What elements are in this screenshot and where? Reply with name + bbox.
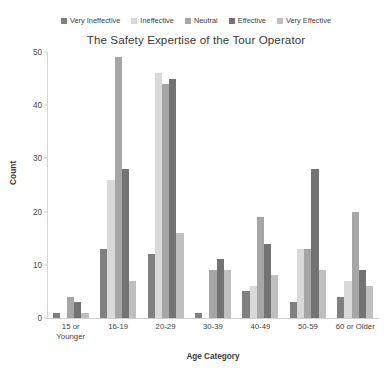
legend-swatch-icon — [185, 18, 191, 24]
bar-group — [189, 52, 236, 318]
bar[interactable] — [74, 302, 81, 318]
bar[interactable] — [155, 73, 162, 318]
x-axis-tick-label: 40-49 — [237, 322, 284, 332]
bar-group — [332, 52, 379, 318]
bar[interactable] — [264, 244, 271, 318]
bar[interactable] — [337, 297, 344, 318]
legend-label: Effective — [238, 17, 266, 24]
x-axis-tick-line: 20-29 — [142, 322, 189, 332]
x-axis-line — [47, 318, 379, 319]
bar[interactable] — [115, 57, 122, 318]
bar-group — [94, 52, 141, 318]
legend-swatch-icon — [277, 18, 283, 24]
bar[interactable] — [290, 302, 297, 318]
bar[interactable] — [242, 291, 249, 318]
legend-item[interactable]: Effective — [229, 17, 266, 24]
legend-label: Ineffective — [140, 17, 174, 24]
bar[interactable] — [81, 313, 88, 318]
x-axis-tick-label: 30-39 — [189, 322, 236, 332]
y-axis-label: Count — [8, 161, 18, 185]
bar-chart: Very IneffectiveIneffectiveNeutralEffect… — [0, 0, 392, 377]
bar[interactable] — [107, 180, 114, 318]
bar[interactable] — [176, 233, 183, 318]
bar[interactable] — [53, 313, 60, 318]
bar[interactable] — [224, 270, 231, 318]
x-axis-tick-line: Younger — [47, 332, 94, 342]
bar[interactable] — [195, 313, 202, 318]
x-axis-label: Age Category — [47, 352, 379, 361]
bar[interactable] — [169, 79, 176, 318]
bar-group — [237, 52, 284, 318]
bar[interactable] — [100, 249, 107, 318]
x-axis-tick-label: 50-59 — [284, 322, 331, 332]
bar[interactable] — [352, 212, 359, 318]
legend-swatch-icon — [61, 18, 67, 24]
legend-label: Very Ineffective — [70, 17, 120, 24]
chart-legend: Very IneffectiveIneffectiveNeutralEffect… — [0, 17, 392, 24]
bar[interactable] — [311, 169, 318, 318]
chart-title: The Safety Expertise of the Tour Operato… — [0, 33, 392, 46]
bar[interactable] — [319, 270, 326, 318]
plot-area: 01020304050 — [47, 52, 379, 318]
x-axis-tick-line: 60 or Older — [332, 322, 379, 332]
x-axis-tick-label: 20-29 — [142, 322, 189, 332]
legend-label: Very Effective — [286, 17, 331, 24]
x-axis-tick-line: 16-19 — [94, 322, 141, 332]
bar[interactable] — [122, 169, 129, 318]
bar[interactable] — [148, 254, 155, 318]
bar[interactable] — [359, 270, 366, 318]
legend-item[interactable]: Very Ineffective — [61, 17, 120, 24]
bar[interactable] — [162, 84, 169, 318]
bar-group — [47, 52, 94, 318]
x-axis-tick-label: 15 orYounger — [47, 322, 94, 342]
x-axis-tick-line: 30-39 — [189, 322, 236, 332]
bar[interactable] — [304, 249, 311, 318]
bar[interactable] — [217, 259, 224, 318]
legend-item[interactable]: Very Effective — [277, 17, 331, 24]
bar[interactable] — [250, 286, 257, 318]
legend-swatch-icon — [229, 18, 235, 24]
legend-item[interactable]: Ineffective — [131, 17, 174, 24]
bar[interactable] — [257, 217, 264, 318]
bar[interactable] — [209, 270, 216, 318]
bar[interactable] — [366, 286, 373, 318]
x-axis-tick-label: 60 or Older — [332, 322, 379, 332]
bar[interactable] — [344, 281, 351, 318]
x-axis-tick-line: 40-49 — [237, 322, 284, 332]
bar[interactable] — [297, 249, 304, 318]
x-axis-tick-line: 50-59 — [284, 322, 331, 332]
legend-swatch-icon — [131, 18, 137, 24]
legend-label: Neutral — [194, 17, 218, 24]
bar[interactable] — [129, 281, 136, 318]
x-axis-tick-label: 16-19 — [94, 322, 141, 332]
legend-item[interactable]: Neutral — [185, 17, 218, 24]
bar[interactable] — [67, 297, 74, 318]
bar-group — [284, 52, 331, 318]
x-axis-tick-line: 15 or — [47, 322, 94, 332]
bar[interactable] — [271, 275, 278, 318]
bar-group — [142, 52, 189, 318]
